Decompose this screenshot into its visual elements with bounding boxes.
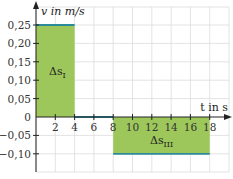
y-tick: −0,10 xyxy=(0,148,31,160)
x-axis-label: t in s xyxy=(200,101,228,114)
y-tick: 0,05 xyxy=(8,93,31,105)
y-tick: 0,25 xyxy=(8,19,31,31)
y-tick: 0 xyxy=(24,111,31,123)
x-tick: 2 xyxy=(52,121,59,133)
y-axis-arrow-icon xyxy=(33,1,39,9)
y-tick: −0,05 xyxy=(0,129,31,141)
y-tick: 0,20 xyxy=(8,37,31,49)
x-tick: 12 xyxy=(145,121,158,133)
y-tick: 0,15 xyxy=(8,56,31,68)
velocity-time-chart: 0,25 0,20 0,15 0,10 0,05 0 −0,05 −0,10 2… xyxy=(0,0,233,179)
x-tick: 6 xyxy=(91,121,98,133)
x-tick: 16 xyxy=(184,121,198,133)
y-axis-label: v in m/s xyxy=(41,5,85,18)
x-tick: 8 xyxy=(110,121,117,133)
y-tick: 0,10 xyxy=(8,74,31,86)
x-tick: 18 xyxy=(203,121,216,133)
x-axis-arrow-icon xyxy=(224,114,232,120)
x-tick: 4 xyxy=(71,121,78,133)
x-tick: 10 xyxy=(126,121,139,133)
x-tick: 14 xyxy=(164,121,178,133)
